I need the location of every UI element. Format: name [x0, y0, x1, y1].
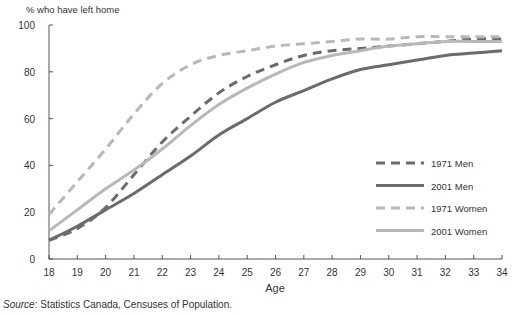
y-tick-label: 60 — [24, 114, 36, 125]
source-text: : Statistics Canada, Censuses of Populat… — [35, 299, 232, 310]
legend-label: 2001 Men — [431, 181, 473, 192]
legend-label: 2001 Women — [431, 226, 487, 237]
x-tick-label: 31 — [412, 267, 424, 278]
legend-label: 1971 Women — [431, 203, 487, 214]
source-note: Source: Statistics Canada, Censuses of P… — [3, 299, 232, 310]
y-axis-title: % who have left home — [26, 4, 119, 15]
legend: 1971 Men2001 Men1971 Women2001 Women — [376, 158, 487, 237]
x-tick-label: 29 — [355, 267, 367, 278]
y-tick-label: 0 — [29, 254, 35, 265]
x-tick-label: 20 — [100, 267, 112, 278]
y-tick-label: 100 — [18, 20, 35, 31]
x-tick-label: 27 — [298, 267, 310, 278]
x-tick-label: 28 — [327, 267, 339, 278]
x-tick-label: 19 — [72, 267, 84, 278]
x-tick-label: 30 — [383, 267, 395, 278]
x-tick-label: 18 — [43, 267, 55, 278]
x-tick-label: 24 — [213, 267, 225, 278]
x-tick-label: 21 — [128, 267, 140, 278]
source-label: Source — [3, 299, 35, 310]
x-tick-label: 25 — [242, 267, 254, 278]
x-tick-label: 23 — [185, 267, 197, 278]
x-axis-title: Age — [265, 282, 285, 294]
x-tick-label: 26 — [270, 267, 282, 278]
y-tick-label: 40 — [24, 160, 36, 171]
x-tick-label: 34 — [496, 267, 508, 278]
legend-label: 1971 Men — [431, 158, 473, 169]
axes: 0204060801001819202122232425262728293031… — [18, 20, 508, 278]
y-tick-label: 80 — [24, 67, 36, 78]
x-tick-label: 32 — [440, 267, 452, 278]
y-tick-label: 20 — [24, 207, 36, 218]
x-tick-label: 22 — [157, 267, 169, 278]
x-tick-label: 33 — [468, 267, 480, 278]
line-chart: % who have left home 0204060801001819202… — [0, 0, 522, 300]
